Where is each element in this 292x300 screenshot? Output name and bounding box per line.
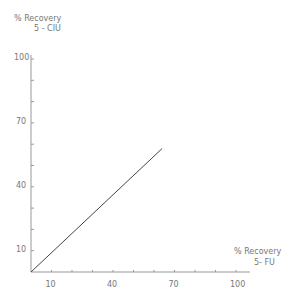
x-tick-label: 10 [46,280,56,289]
x-tick-label: 40 [107,280,117,289]
y-tick-label: 100 [14,53,29,62]
regression-line [31,148,162,272]
x-tick-label: 100 [230,280,245,289]
y-axis-label-line1: % Recovery [14,14,61,23]
x-tick-label: 70 [169,280,179,289]
x-axis-label-line2: 5- FU [254,258,275,267]
y-tick-label: 40 [16,181,26,190]
x-axis-label-line1: % Recovery [234,247,281,256]
y-axis-label-line2: 5 - CIU [34,24,61,33]
y-tick-label: 70 [16,117,26,126]
y-tick-label: 10 [16,245,26,254]
